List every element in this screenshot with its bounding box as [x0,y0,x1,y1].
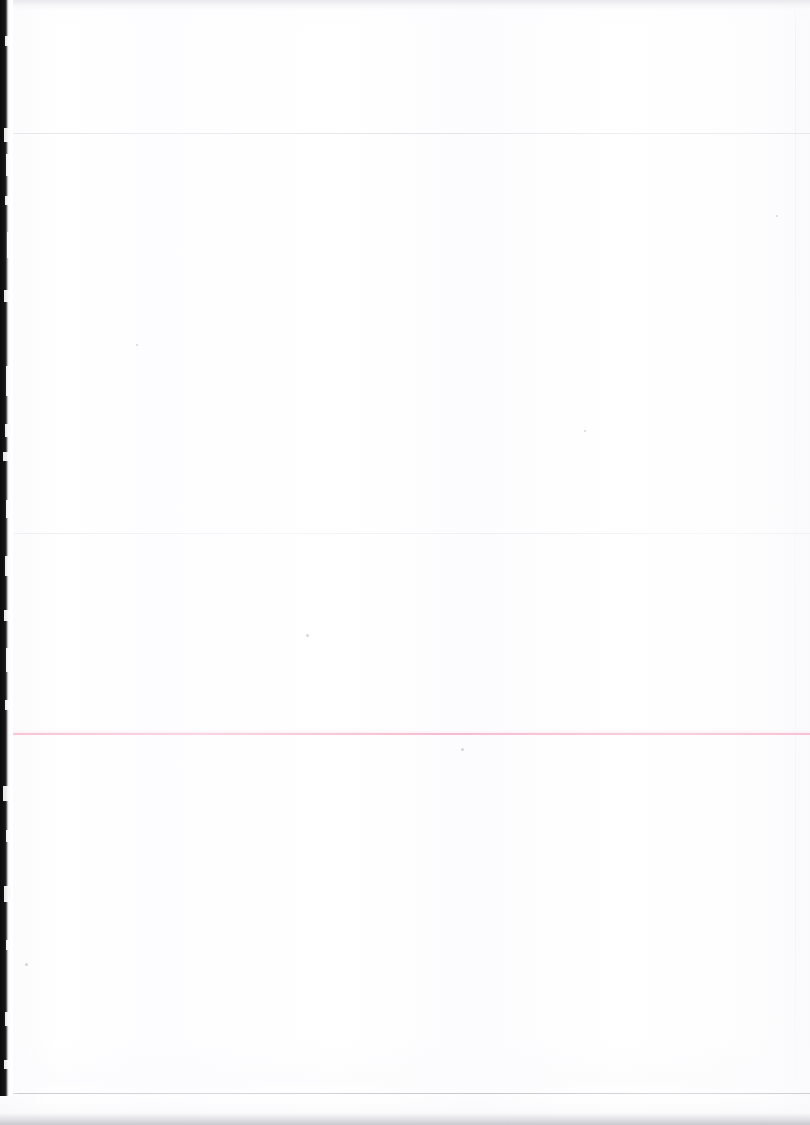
shadow-wisp [5,556,10,576]
shadow-wisp [6,648,10,672]
shadow-wisp [4,1060,10,1069]
shadow-wisp [6,366,10,396]
shadow-wisp [3,452,10,461]
shadow-wisp [6,940,10,950]
page-body-text [30,150,780,710]
scanned-page [0,0,810,1125]
shadow-wisp [4,290,9,302]
shadow-wisp [4,886,11,902]
shadow-wisp [4,610,10,621]
shadow-wisp [7,232,10,258]
shadow-wisp [5,1012,10,1026]
left-scan-shadow [0,0,13,1096]
shadow-wisp [6,830,10,842]
shadow-wisp [3,786,9,801]
shadow-wisp [4,128,10,142]
shadow-wisp [5,196,10,205]
shadow-wisp [6,154,10,176]
shadow-wisp [5,36,9,46]
shadow-wisp [5,424,11,437]
shadow-wisp [6,500,10,518]
shadow-wisp [5,700,10,710]
